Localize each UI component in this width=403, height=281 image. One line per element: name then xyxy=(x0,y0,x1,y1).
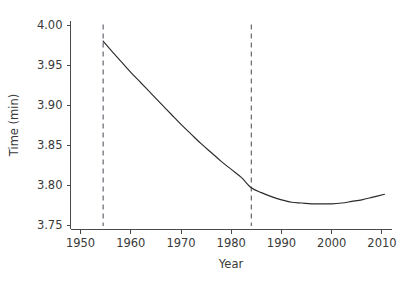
x-axis-tick-labels: 1950196019701980199020002010 xyxy=(66,236,397,250)
y-axis-tick-labels: 3.753.803.853.903.954.00 xyxy=(37,18,63,232)
y-tick-label: 3.80 xyxy=(37,178,63,192)
y-tick-label: 3.90 xyxy=(37,98,63,112)
x-tick-label: 1980 xyxy=(217,236,246,250)
y-tick-label: 3.85 xyxy=(37,138,63,152)
y-axis-title: Time (min) xyxy=(7,94,21,157)
x-axis-title: Year xyxy=(218,257,244,271)
x-tick-label: 2000 xyxy=(317,236,346,250)
x-tick-label: 2010 xyxy=(367,236,396,250)
x-tick-label: 1990 xyxy=(267,236,296,250)
y-tick-label: 4.00 xyxy=(37,18,63,32)
x-axis-ticks xyxy=(81,230,382,234)
reference-lines-group xyxy=(103,25,251,226)
y-tick-label: 3.75 xyxy=(37,218,63,232)
x-tick-label: 1970 xyxy=(166,236,195,250)
y-axis-ticks xyxy=(67,25,71,225)
x-tick-label: 1960 xyxy=(116,236,145,250)
line-chart-canvas: 3.753.803.853.903.954.00 195019601970198… xyxy=(0,0,403,281)
data-series-line xyxy=(103,41,384,204)
chart-figure: 3.753.803.853.903.954.00 195019601970198… xyxy=(0,0,403,281)
x-tick-label: 1950 xyxy=(66,236,95,250)
y-tick-label: 3.95 xyxy=(37,58,63,72)
